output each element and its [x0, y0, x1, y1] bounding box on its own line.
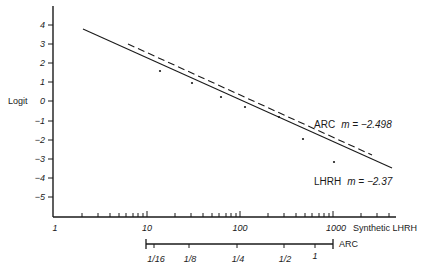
y-tick-label: 1	[40, 77, 45, 87]
x-ticks	[82, 211, 389, 217]
y-tick-label: 3	[40, 39, 45, 49]
arc-axis-title: ARC	[339, 239, 359, 249]
lhrh-line	[83, 29, 392, 168]
y-tick-labels: 4 3 2 1 0 −1 −2 −3 −4 −5	[35, 20, 46, 202]
y-tick-label: 2	[39, 58, 45, 68]
arc-tick-label: 1/4	[232, 254, 245, 264]
x-tick-labels: 1 10 100 1000	[52, 223, 346, 233]
y-axis-title: Logit	[8, 96, 28, 106]
arc-tick-label: 1/16	[147, 254, 165, 264]
arc-tick-label: 1/2	[279, 254, 292, 264]
x-tick-label: 1	[52, 223, 57, 233]
arc-tick-label: 1/8	[184, 254, 197, 264]
y-tick-label: −5	[35, 192, 46, 202]
y-tick-label: 0	[40, 96, 45, 106]
x-axis-title: Synthetic LHRH	[353, 223, 417, 233]
arc-tick-label: 1	[312, 251, 317, 261]
y-tick-label: −1	[35, 116, 45, 126]
arc-label: ARCm = −2.498	[314, 119, 392, 130]
y-tick-label: 4	[40, 20, 45, 30]
lhrh-label: LHRHm = −2.37	[314, 176, 393, 187]
arc-line	[128, 44, 372, 155]
x-tick-label: 10	[142, 223, 152, 233]
y-tick-label: −2	[35, 135, 45, 145]
x-tick-label: 1000	[326, 223, 346, 233]
chart: 4 3 2 1 0 −1 −2 −3 −4 −5 Logit	[0, 0, 427, 270]
x-tick-label: 100	[232, 223, 247, 233]
y-tick-label: −3	[35, 154, 45, 164]
data-points	[159, 70, 335, 163]
y-tick-label: −4	[35, 173, 45, 183]
arc-scale	[146, 239, 333, 249]
arc-scale-labels: 1/16 1/8 1/4 1/2 1	[147, 251, 317, 264]
y-ticks	[48, 25, 53, 197]
